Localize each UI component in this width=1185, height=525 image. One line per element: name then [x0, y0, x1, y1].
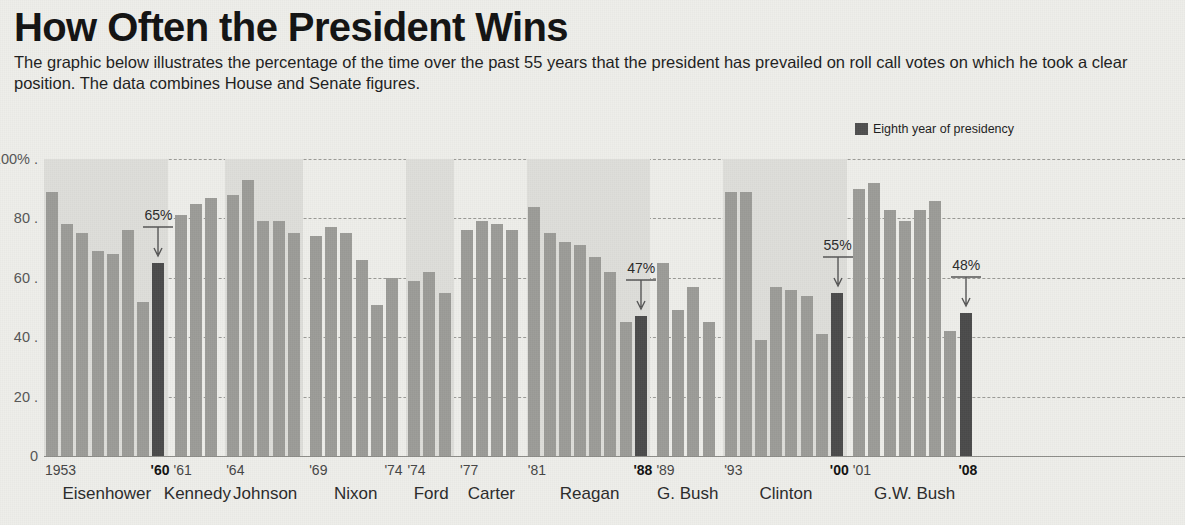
bar: [340, 233, 352, 456]
y-axis-tick-0: 0: [30, 448, 38, 464]
callout-label: 48%: [949, 257, 983, 273]
bar: [273, 221, 285, 456]
year-start-label: '81: [528, 462, 546, 478]
year-end-label: '88: [633, 462, 652, 478]
administration-group-eisenhower: [46, 150, 168, 457]
year-start-label: 1953: [45, 462, 76, 478]
bar: [544, 233, 556, 456]
callout-label: 65%: [141, 207, 175, 223]
callout-g-w-bush: 48%: [949, 257, 983, 309]
administration-group-kennedy: [175, 150, 221, 457]
bar: [703, 322, 715, 456]
callout-pointer-icon: [821, 253, 855, 289]
bar: [604, 272, 616, 456]
header: How Often the President Wins The graphic…: [0, 0, 1185, 94]
chart-plot-area: 020 .40 .60 .80 .100% . 65%47%55%48% 195…: [0, 150, 1185, 525]
y-axis-labels: 020 .40 .60 .80 .100% .: [0, 150, 44, 470]
year-end-label: '74: [384, 462, 402, 478]
administration-group-ford: [408, 150, 454, 457]
legend-swatch-eighth-year: [855, 123, 868, 135]
president-label-g-w-bush: G.W. Bush: [874, 484, 955, 504]
administration-group-nixon: [310, 150, 401, 457]
bar: [242, 180, 254, 456]
bar: [687, 287, 699, 456]
bar: [386, 278, 398, 456]
callout-label: 47%: [624, 260, 658, 276]
bar: [944, 331, 956, 456]
year-start-label: '77: [460, 462, 478, 478]
bar: [725, 192, 737, 456]
legend-label: Eighth year of presidency: [873, 122, 1014, 136]
bar: [122, 230, 134, 456]
bar: [635, 316, 647, 456]
bar: [801, 296, 813, 456]
administration-group-clinton: [725, 150, 847, 457]
bar: [868, 183, 880, 456]
bar: [461, 230, 473, 456]
bar: [770, 287, 782, 456]
president-label-reagan: Reagan: [560, 484, 620, 504]
callout-label: 55%: [821, 237, 855, 253]
bar: [190, 204, 202, 456]
bar: [914, 210, 926, 457]
bar: [506, 230, 518, 456]
callout-reagan: 47%: [624, 260, 658, 312]
president-label-johnson: Johnson: [233, 484, 297, 504]
bar: [257, 221, 269, 456]
bar: [325, 227, 337, 456]
bar: [491, 224, 503, 456]
bar: [831, 293, 843, 456]
bar: [371, 305, 383, 456]
administration-group-g-bush: [657, 150, 718, 457]
callout-pointer-icon: [949, 273, 983, 309]
president-label-carter: Carter: [468, 484, 515, 504]
bar: [884, 210, 896, 457]
page-title: How Often the President Wins: [14, 4, 1173, 50]
y-axis-tick-60: 60 .: [14, 270, 38, 286]
bar: [672, 310, 684, 456]
bar: [960, 313, 972, 456]
bar: [288, 233, 300, 456]
bar: [227, 195, 239, 456]
y-axis-tick-40: 40 .: [14, 329, 38, 345]
year-start-label: '74: [407, 462, 425, 478]
x-axis-labels: 1953'60Eisenhower'61Kennedy'64Johnson'69…: [44, 460, 1185, 520]
bar: [740, 192, 752, 456]
president-label-clinton: Clinton: [760, 484, 813, 504]
bar: [408, 281, 420, 456]
callout-eisenhower: 65%: [141, 207, 175, 259]
president-label-g-bush: G. Bush: [657, 484, 718, 504]
bars-container: [46, 150, 1183, 457]
bar: [356, 260, 368, 456]
deck-text: The graphic below illustrates the percen…: [14, 52, 1173, 94]
year-start-label: '64: [226, 462, 244, 478]
year-end-label: '00: [830, 462, 849, 478]
president-label-ford: Ford: [414, 484, 449, 504]
year-end-label: '60: [151, 462, 170, 478]
administration-group-carter: [461, 150, 522, 457]
bar: [657, 263, 669, 456]
bar: [423, 272, 435, 456]
bar: [152, 263, 164, 456]
president-label-nixon: Nixon: [334, 484, 377, 504]
bar: [528, 207, 540, 456]
year-start-label: '01: [853, 462, 871, 478]
bar: [46, 192, 58, 456]
bar: [439, 293, 451, 456]
bar: [785, 290, 797, 456]
y-axis-tick-100: 100% .: [0, 151, 38, 167]
legend: Eighth year of presidency: [855, 122, 1014, 136]
bar: [853, 189, 865, 456]
year-start-label: '69: [309, 462, 327, 478]
bar: [899, 221, 911, 456]
president-label-eisenhower: Eisenhower: [62, 484, 151, 504]
y-axis-tick-20: 20 .: [14, 389, 38, 405]
bar: [310, 236, 322, 456]
bar: [816, 334, 828, 456]
bar: [107, 254, 119, 456]
bar: [205, 198, 217, 456]
bar: [755, 340, 767, 456]
callout-clinton: 55%: [821, 237, 855, 289]
president-label-kennedy: Kennedy: [164, 484, 231, 504]
bar: [175, 215, 187, 456]
